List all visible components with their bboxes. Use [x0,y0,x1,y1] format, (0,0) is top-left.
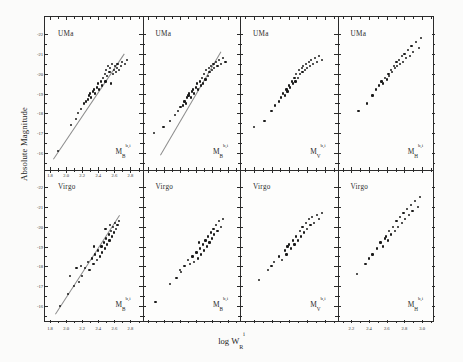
y-tick-minor [338,123,340,124]
data-point [80,108,82,110]
data-point [292,82,294,84]
data-point [162,126,164,128]
data-point [187,259,189,261]
data-point [386,78,388,80]
y-tick-major [45,286,48,287]
x-tick-major-top [422,170,423,173]
magnitude-label-subscript: H [414,306,418,312]
data-point [199,80,201,82]
y-tick-major [143,306,146,307]
magnitude-label-text: M [213,300,220,309]
x-tick-minor-top [204,170,205,172]
scatter-panel-virgo-v: VirgoMVb,i [240,170,338,323]
data-point [418,47,420,49]
data-point [395,220,397,222]
y-tick-major [338,227,341,228]
data-point [183,265,185,267]
y-tick-minor-right [433,84,435,85]
y-tick-minor [338,44,340,45]
x-tick-minor-top [122,170,123,172]
x-tick-major-top [387,170,388,173]
y-tick-minor [338,256,340,257]
data-point [112,226,114,228]
data-point [410,204,412,206]
x-tick-minor-top [245,17,246,19]
x-tick-major-top [351,17,352,20]
magnitude-label-subscript: B [220,153,223,159]
x-tick-major-top [148,17,149,20]
data-point [177,110,179,112]
data-point [356,273,358,275]
data-point [281,259,283,261]
x-tick-minor [316,321,317,323]
data-point [258,279,260,281]
x-tick-major [404,320,405,323]
data-point [411,210,413,212]
y-tick-minor [143,123,145,124]
y-tick-minor [240,123,242,124]
x-tick-label: 2.4 [366,326,372,331]
y-tick-major [143,227,146,228]
data-point [267,269,269,271]
data-point [417,206,419,208]
y-tick-major-right [432,113,435,114]
y-tick-major [240,286,243,287]
x-tick-major-top [50,17,51,20]
y-tick-major-right [432,34,435,35]
y-tick-minor-right [433,256,435,257]
magnitude-label-superscript: b,i [320,143,325,148]
data-point [224,61,226,63]
magnitude-label-text: M [310,147,317,156]
data-point [104,228,106,230]
y-tick-major [143,34,146,35]
x-tick-major-top [289,170,290,173]
x-tick-minor [74,321,75,323]
x-tick-major [272,320,273,323]
y-tick-minor [240,316,242,317]
data-point [92,263,94,265]
data-point [366,102,368,104]
data-point [306,67,308,69]
x-tick-label: 2.8 [128,326,134,331]
y-tick-minor [45,123,47,124]
data-point [203,249,205,251]
y-tick-major [143,94,146,95]
data-point [202,243,204,245]
data-point [295,235,297,237]
x-tick-minor-top [298,170,299,172]
x-tick-minor-top [245,170,246,172]
y-tick-minor [240,44,242,45]
cluster-label-virgo: Virgo [156,183,174,191]
y-axis-label: Absolute Magnitude [19,84,29,204]
y-tick-major [143,286,146,287]
x-tick-major [422,320,423,323]
magnitude-label-virgo-h: MHb,i [408,300,423,309]
y-tick-minor-right [433,143,435,144]
data-point [87,98,89,100]
data-point [73,285,75,287]
y-tick-major [338,187,341,188]
data-point [402,212,404,214]
x-tick-major [180,320,181,323]
data-point [401,55,403,57]
y-tick-major [240,207,243,208]
y-tick-minor [143,103,145,104]
y-tick-major [143,207,146,208]
x-tick-major-top [272,17,273,20]
x-tick-minor-top [236,170,237,172]
data-point [382,82,384,84]
y-tick-minor [338,143,340,144]
y-tick-minor [240,237,242,238]
y-tick-major [338,286,341,287]
x-tick-major [114,320,115,323]
magnitude-label-uma-b-1: MBb,i [115,147,130,156]
data-point [412,51,414,53]
y-tick-major [143,153,146,154]
magnitude-label-subscript: B [220,306,223,312]
data-point [303,231,305,233]
magnitude-label-superscript: b,i [418,296,423,301]
data-point [196,82,198,84]
data-point [182,104,184,106]
y-tick-major [338,74,341,75]
y-tick-major-right [432,153,435,154]
